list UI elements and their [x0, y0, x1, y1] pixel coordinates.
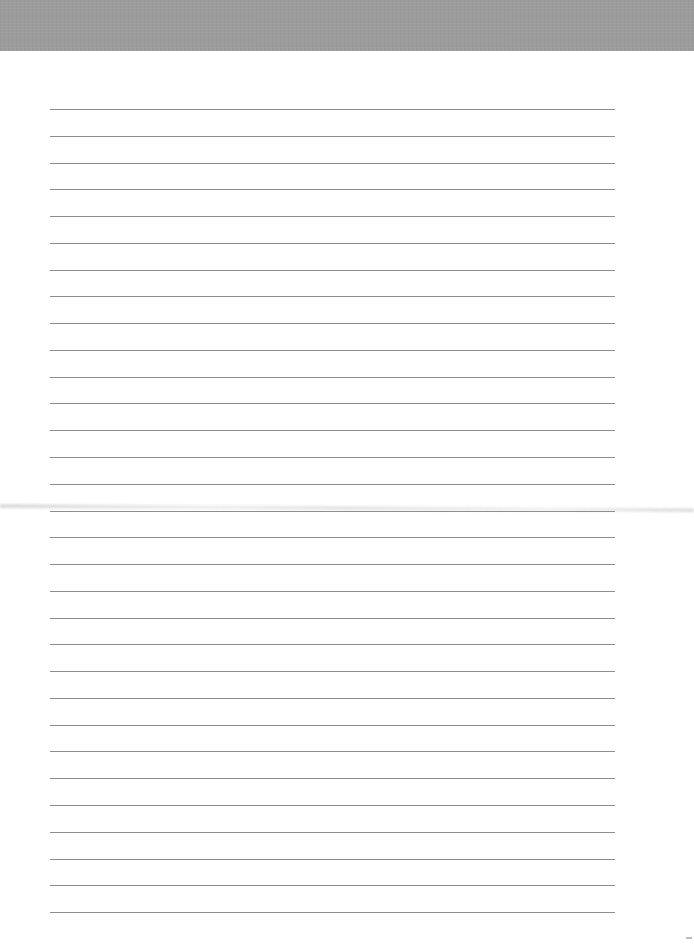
ruled-line: [50, 698, 615, 699]
ruled-line: [50, 912, 615, 913]
ruled-line: [50, 618, 615, 619]
ruled-line: [50, 109, 615, 110]
ruled-line: [50, 457, 615, 458]
ruled-line: [50, 591, 615, 592]
ruled-line: [50, 350, 615, 351]
ruled-line: [50, 270, 615, 271]
ruled-line: [50, 377, 615, 378]
ruled-line: [50, 805, 615, 806]
ruled-line: [50, 671, 615, 672]
ruled-line: [50, 296, 615, 297]
ruled-line: [50, 163, 615, 164]
ruled-line: [50, 243, 615, 244]
ruled-line: [50, 484, 615, 485]
ruled-line: [50, 323, 615, 324]
ruled-line: [50, 859, 615, 860]
ruled-lines: [0, 0, 694, 948]
ruled-line: [50, 537, 615, 538]
ruled-line: [50, 564, 615, 565]
ruled-line: [50, 189, 615, 190]
ruled-line: [50, 725, 615, 726]
ruled-line: [50, 751, 615, 752]
ruled-line: [50, 832, 615, 833]
ruled-line: [50, 216, 615, 217]
ruled-line: [50, 885, 615, 886]
ruled-line: [50, 778, 615, 779]
ruled-line: [50, 430, 615, 431]
scan-artifact: [686, 937, 692, 939]
ruled-line: [50, 644, 615, 645]
ruled-line: [50, 136, 615, 137]
ruled-line: [50, 403, 615, 404]
